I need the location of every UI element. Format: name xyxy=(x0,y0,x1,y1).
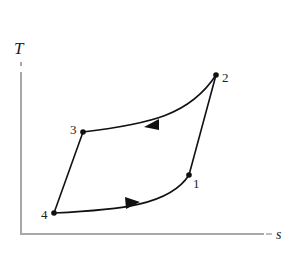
ts-diagram: T s 1 2 3 4 xyxy=(0,0,291,253)
process-1-2 xyxy=(189,75,216,175)
point-label-1: 1 xyxy=(193,176,200,191)
process-3-4 xyxy=(54,132,83,213)
point-2 xyxy=(213,72,219,78)
state-points xyxy=(51,72,219,216)
point-1 xyxy=(186,172,192,178)
point-label-3: 3 xyxy=(70,122,77,137)
x-axis-label: s xyxy=(276,227,282,242)
process-4-1 xyxy=(54,175,189,213)
y-axis-label: T xyxy=(14,39,25,58)
cycle-paths xyxy=(54,75,216,213)
arrow-4-1-icon xyxy=(125,197,140,209)
process-2-3 xyxy=(83,75,216,132)
arrows xyxy=(125,119,159,209)
point-4 xyxy=(51,210,57,216)
point-label-4: 4 xyxy=(41,207,48,222)
point-label-2: 2 xyxy=(222,70,229,85)
point-3 xyxy=(80,129,86,135)
